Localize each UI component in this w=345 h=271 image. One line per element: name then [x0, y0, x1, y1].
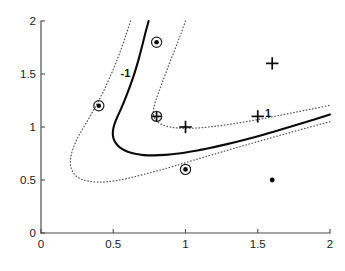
dot-marker	[154, 40, 159, 45]
contour-label-minus-one: -1	[120, 67, 130, 79]
y-tick-label-2: 1	[30, 121, 36, 133]
contour-margin-plus-one	[153, 21, 330, 128]
marker-plus	[179, 121, 191, 133]
svm-contour-figure: 00.511.5200.511.52 -11	[0, 0, 345, 271]
contour-margin-minus-one	[70, 21, 330, 182]
x-tick-label-1: 0.5	[105, 238, 121, 250]
contour-curves	[70, 21, 330, 182]
x-tick-label-2: 1	[182, 238, 188, 250]
contour-label-plus-one: 1	[265, 107, 271, 119]
marker-plus	[266, 57, 278, 69]
marker-circled-dot	[94, 101, 104, 111]
marker-circled-dot	[152, 37, 162, 47]
dot-marker	[97, 104, 102, 109]
contour-decision-boundary	[113, 21, 330, 155]
contour-annotations: -11	[120, 67, 271, 119]
dot-marker	[270, 178, 275, 183]
series-class-+1-points	[179, 57, 278, 133]
dot-marker	[183, 167, 188, 172]
axis-ticks: 00.511.5200.511.52	[20, 15, 333, 250]
marker-dot	[270, 178, 275, 183]
y-tick-label-3: 1.5	[20, 68, 36, 80]
marker-circled-plus	[151, 111, 162, 122]
y-tick-label-1: 0.5	[20, 174, 36, 186]
x-tick-label-3: 1.5	[250, 238, 266, 250]
series-class--1-points	[270, 178, 275, 183]
y-tick-label-4: 2	[30, 15, 36, 27]
plot-canvas: 00.511.5200.511.52 -11	[0, 0, 345, 271]
marker-circled-dot	[180, 164, 190, 174]
x-tick-label-4: 2	[327, 238, 333, 250]
y-tick-label-0: 0	[30, 227, 36, 239]
series-class-+1-support-vectors	[151, 111, 162, 122]
x-tick-label-0: 0	[38, 238, 44, 250]
